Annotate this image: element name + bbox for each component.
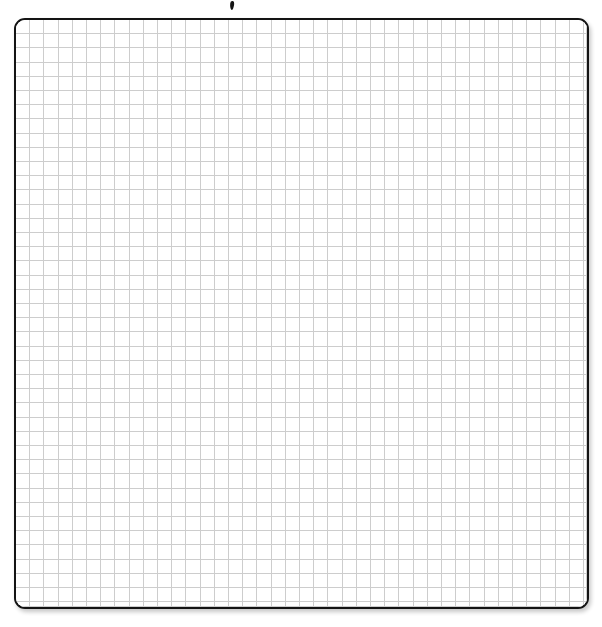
square-grid: [16, 20, 587, 607]
ink-speck-artifact: [230, 1, 235, 10]
graph-paper-sheet[interactable]: [14, 18, 589, 609]
page-root: [0, 0, 602, 627]
